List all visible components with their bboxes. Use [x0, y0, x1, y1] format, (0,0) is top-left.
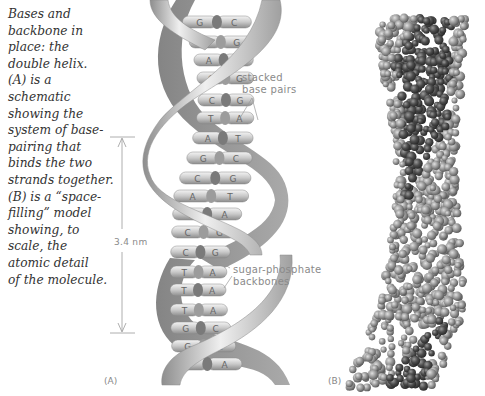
svg-text:A: A	[222, 360, 229, 370]
svg-text:C: C	[233, 154, 239, 164]
svg-text:C: C	[182, 248, 188, 258]
svg-text:C: C	[213, 324, 219, 334]
svg-text:A: A	[221, 210, 228, 220]
svg-text:C: C	[194, 174, 200, 184]
svg-text:G: G	[230, 174, 237, 184]
svg-text:T: T	[181, 306, 188, 316]
base-pair: TA	[170, 265, 227, 279]
svg-text:A: A	[189, 192, 196, 202]
base-pair: TA	[170, 283, 226, 297]
svg-text:G: G	[236, 96, 243, 106]
svg-text:T: T	[181, 268, 188, 278]
svg-text:G: G	[212, 248, 219, 258]
svg-text:C: C	[209, 96, 215, 106]
svg-text:A: A	[209, 286, 216, 296]
svg-text:A: A	[210, 306, 217, 316]
svg-text:A: A	[206, 56, 213, 66]
dimension-marker	[110, 137, 135, 333]
panel-label-b: (B)	[328, 376, 341, 386]
svg-text:G: G	[200, 154, 207, 164]
svg-text:T: T	[207, 114, 214, 124]
base-pair: TA	[170, 303, 227, 317]
svg-text:A: A	[236, 114, 243, 124]
base-pair: TA	[197, 111, 254, 125]
svg-text:G: G	[182, 324, 189, 334]
base-pair: CG	[180, 171, 251, 185]
dimension-label: 3.4 nm	[114, 236, 147, 248]
double-helix-schematic: GCCGATCGCGTAATGCCGATTACGCGTATATAGCGCTA	[0, 0, 485, 396]
svg-text:G: G	[196, 18, 203, 28]
svg-text:T: T	[226, 192, 233, 202]
space-filling-model	[346, 14, 469, 392]
svg-text:G: G	[233, 38, 240, 48]
svg-text:T: T	[234, 134, 241, 144]
panel-label-a: (A)	[104, 376, 117, 386]
base-pair: GC	[182, 15, 251, 29]
svg-text:C: C	[184, 228, 190, 238]
svg-text:A: A	[205, 134, 212, 144]
svg-text:C: C	[231, 18, 237, 28]
svg-text:T: T	[180, 286, 187, 296]
base-pair: AT	[193, 131, 253, 145]
stacked-base-pairs-label: stacked base pairs	[242, 72, 297, 96]
base-pair: GC	[187, 151, 252, 165]
base-pair: CG	[171, 245, 230, 259]
svg-text:A: A	[210, 268, 217, 278]
base-pair: AT	[174, 189, 249, 203]
sugar-phosphate-backbones-label: sugar-phosphate backbones	[233, 264, 322, 288]
